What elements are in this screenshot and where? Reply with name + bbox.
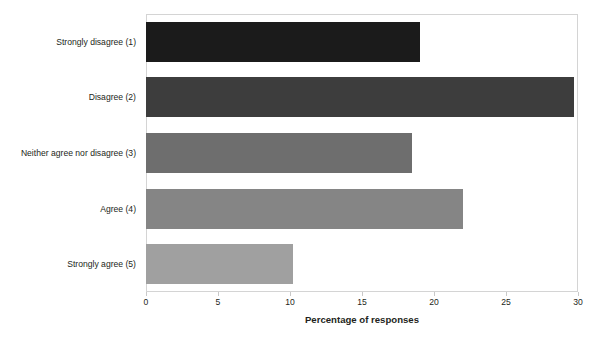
bar-row [146,236,578,292]
y-axis-labels: Strongly disagree (1) Disagree (2) Neith… [0,14,142,292]
x-axis-tick-mark [578,292,579,296]
bar-row [146,14,578,70]
x-axis-tick-label: 15 [357,297,367,307]
x-axis-tick-mark [506,292,507,296]
bar-neither[interactable] [146,133,412,173]
x-axis-tick-label: 25 [501,297,511,307]
bar-agree[interactable] [146,189,463,229]
x-axis-tick-label: 5 [216,297,221,307]
x-axis-tick-label: 0 [144,297,149,307]
y-axis-tick-label: Neither agree nor disagree (3) [0,125,136,181]
y-axis-tick-label: Strongly disagree (1) [0,14,136,70]
x-axis-tick-label: 10 [285,297,295,307]
x-axis-tick-label: 30 [573,297,583,307]
x-axis-title: Percentage of responses [146,314,578,325]
bar-disagree[interactable] [146,77,574,117]
bars-layer [146,14,578,292]
bar-row [146,70,578,126]
x-axis-tick-mark [146,292,147,296]
x-axis-tick-label: 20 [429,297,439,307]
bar-row [146,125,578,181]
x-axis-tick-mark [434,292,435,296]
bar-chart: Strongly disagree (1) Disagree (2) Neith… [0,0,591,339]
bar-strongly-agree[interactable] [146,244,293,284]
bar-row [146,181,578,237]
x-axis-tick-mark [218,292,219,296]
x-axis: 051015202530 [146,292,578,312]
chart-title [0,0,591,5]
y-axis-tick-label: Agree (4) [0,181,136,237]
x-axis-tick-mark [290,292,291,296]
y-axis-tick-label: Disagree (2) [0,70,136,126]
y-axis-tick-label: Strongly agree (5) [0,236,136,292]
x-axis-tick-mark [362,292,363,296]
bar-strongly-disagree[interactable] [146,22,420,62]
